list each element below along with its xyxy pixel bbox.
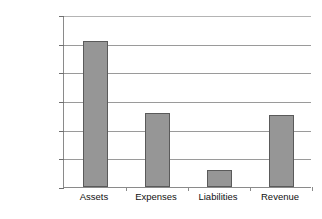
- x-tick-mark: [188, 187, 189, 191]
- y-tick-mark: [59, 73, 64, 74]
- plot-area: [63, 16, 311, 188]
- y-tick-mark: [59, 16, 64, 17]
- x-tick-label-liabilities: Liabilities: [187, 192, 249, 202]
- x-tick-label-assets: Assets: [63, 192, 125, 202]
- bar-expenses[interactable]: [145, 113, 170, 187]
- bar-liabilities[interactable]: [207, 170, 232, 187]
- y-tick-mark: [59, 45, 64, 46]
- x-tick-label-revenue: Revenue: [249, 192, 311, 202]
- cropped-title-remnant: [0, 0, 322, 4]
- x-tick-mark: [126, 187, 127, 191]
- bar-revenue[interactable]: [269, 115, 294, 187]
- y-tick-mark: [59, 102, 64, 103]
- x-tick-label-expenses: Expenses: [125, 192, 187, 202]
- bar-chart: $1,200,000$1,000,000$800,000$600,000$400…: [0, 0, 322, 219]
- bar-assets[interactable]: [83, 41, 108, 187]
- x-tick-mark: [250, 187, 251, 191]
- y-tick-mark: [59, 159, 64, 160]
- x-tick-mark: [312, 187, 313, 191]
- y-tick-mark: [59, 131, 64, 132]
- y-tick-mark: [59, 188, 64, 189]
- gridline: [64, 16, 311, 17]
